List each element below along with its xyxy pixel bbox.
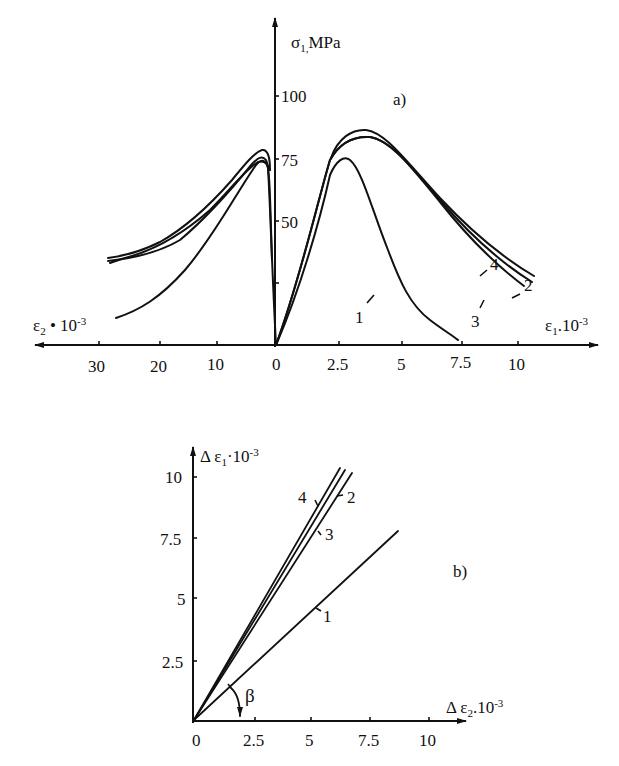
angle-beta-label: β [245,685,255,706]
ytick-75: 75 [281,151,298,170]
curve-label-a-2: 2 [524,276,533,295]
xtick-2.5: 2.5 [327,355,348,374]
xtick-b-5: 5 [305,731,314,750]
xtick-left-10: 10 [207,355,224,374]
xtick-left-30: 30 [88,357,105,376]
line-label-b-1: 1 [323,607,332,626]
ytick-b-5: 5 [177,590,186,609]
xtick-0: 0 [272,355,281,374]
y-axis-label: σ1,MPa [291,33,341,54]
xtick-10: 10 [508,355,525,374]
curve-label-a-1: 1 [355,308,364,327]
line-label-b-2: 2 [347,488,356,507]
line-label-b-4: 4 [298,488,307,507]
ytick-50: 50 [281,213,298,232]
xtick-b-7.5: 7.5 [358,731,379,750]
panel-label-a: a) [393,90,406,109]
curve-a-left-3 [110,161,270,263]
x-axis-left-label: ε2 • 10-3 [33,315,87,337]
ytick-b-10: 10 [165,468,182,487]
ytick-100: 100 [281,87,307,106]
xtick-7.5: 7.5 [450,353,471,372]
x-axis-b-label: Δ ε2.10-3 [446,697,504,719]
y-axis-b-label: Δ ε1·10-3 [200,446,259,468]
ytick-b-2.5: 2.5 [162,653,183,672]
curve-a-right-2 [276,137,532,345]
panel-label-b: b) [453,562,467,581]
figure: 100 75 50 0 2.5 5 7.5 10 30 20 10 σ1,MPa… [0,0,619,766]
x-axis-right-label: ε1.10-3 [545,315,589,337]
xtick-b-0: 0 [192,731,201,750]
xtick-b-2.5: 2.5 [243,731,264,750]
curve-label-a-4: 4 [490,255,499,274]
chart-b: 10 7.5 5 2.5 0 2.5 5 7.5 10 Δ ε1·10-3 Δ … [160,446,504,750]
curve-a-left-4 [108,150,270,258]
xtick-5: 5 [397,355,406,374]
xtick-b-10: 10 [419,731,436,750]
angle-arrow-icon [231,688,240,716]
chart-a: 100 75 50 0 2.5 5 7.5 10 30 20 10 σ1,MPa… [33,18,598,376]
line-label-b-3: 3 [325,525,334,544]
curve-a-left-2 [108,157,272,261]
curve-label-a-3: 3 [471,312,480,331]
xtick-left-20: 20 [150,357,167,376]
curve-a-right-4 [331,130,534,276]
ytick-b-7.5: 7.5 [160,530,181,549]
